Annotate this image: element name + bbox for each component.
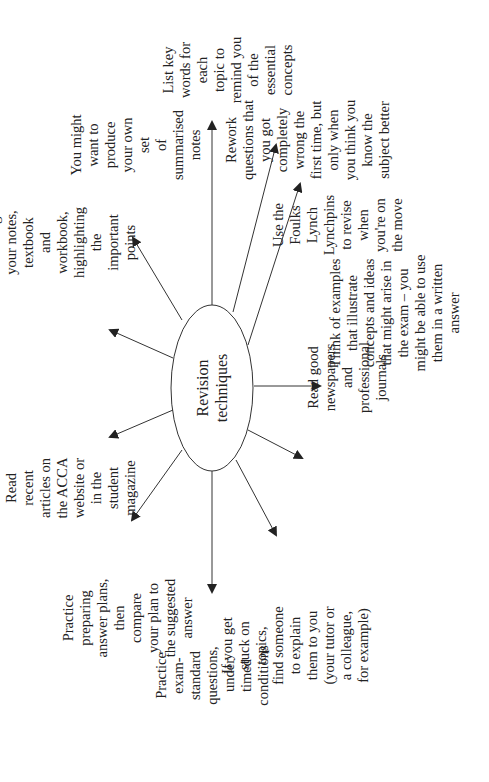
node-go-through: Go through your notes, textbook and work… — [25, 165, 100, 320]
node-answer-plans-text: Practice preparing answer plans, then co… — [60, 578, 196, 658]
node-summarised-text: You might want to produce your own set o… — [68, 110, 204, 180]
node-newspapers-text: Read good newspapers and professional jo… — [305, 340, 390, 415]
node-articles-text: Read recent articles on the ACCA website… — [3, 455, 139, 520]
node-newspapers: Read good newspapers and professional jo… — [310, 315, 385, 440]
center-label: Revision techniques — [193, 354, 231, 422]
node-summarised: You might want to produce your own set o… — [105, 70, 167, 220]
node-articles: Read recent articles on the ACCA website… — [38, 405, 103, 570]
